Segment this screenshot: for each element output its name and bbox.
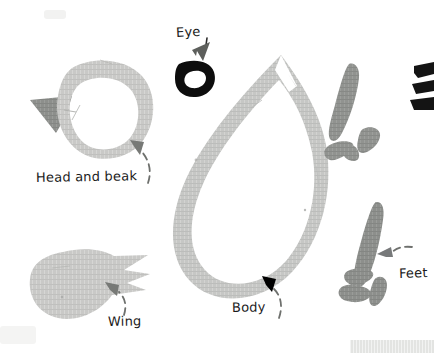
label-wing: Wing [108,313,142,329]
foot-upper [324,64,380,161]
feet-pointer-arrow [377,247,393,257]
foot-upper-toe-mid [343,145,359,161]
body-pointer-line [274,289,281,318]
label-feet: Feet [399,265,428,281]
body-speck [195,159,198,162]
head-ring-fold-line [72,105,80,120]
wing-pointer-line [119,292,125,315]
craft-template-page: Eye Head and beak Wing Body Feet [0,0,434,353]
foot-lower-toe-left [344,269,373,286]
body-speck [304,209,306,211]
wing [30,249,150,319]
foot-lower-toe-right [369,277,387,306]
head-and-beak-pointer-line [142,152,150,183]
cut-edge-fragment [410,62,434,110]
paper-scrap [350,340,434,353]
eye [175,61,215,97]
label-head-and-beak: Head and beak [36,168,137,185]
feet-pointer-line [391,247,412,253]
foot-upper-toe-right [357,127,380,153]
label-body: Body [232,299,266,315]
foot-upper-leg [329,64,359,141]
wing-speck [61,296,64,299]
label-eye: Eye [176,24,201,40]
foot-lower-toe-mid [339,285,372,302]
eye-pointer-arrow [192,42,210,61]
